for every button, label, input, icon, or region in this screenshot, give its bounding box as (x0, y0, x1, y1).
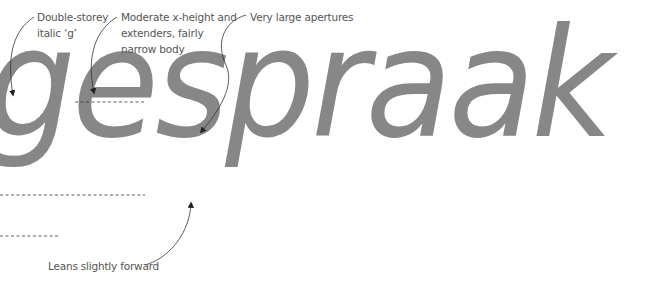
annotation-lines (0, 0, 649, 283)
guide-lines (0, 102, 145, 236)
arrow-g (11, 17, 34, 95)
arrow-lean (145, 203, 191, 265)
annotation-lean: Leans slightly forward (48, 258, 159, 274)
annotation-apertures: Very large apertures (250, 9, 353, 25)
annotation-g: Double-storey italic ‘g’ (37, 9, 108, 41)
annotation-xheight: Moderate x-height and extenders, fairly … (121, 9, 237, 57)
